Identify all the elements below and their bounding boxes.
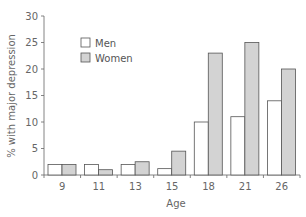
bar-men-13 <box>121 164 135 175</box>
bar-women-15 <box>172 151 186 175</box>
legend-swatch-men <box>81 38 90 47</box>
y-tick-label: 25 <box>25 37 38 48</box>
bar-men-15 <box>158 169 172 175</box>
bar-men-9 <box>48 164 62 175</box>
legend-label-women: Women <box>95 53 133 64</box>
y-tick-label: 0 <box>32 170 38 181</box>
y-tick-label: 30 <box>25 11 38 22</box>
y-tick-label: 15 <box>25 90 38 101</box>
x-tick-label: 9 <box>59 181 65 192</box>
y-tick-label: 20 <box>25 64 38 75</box>
legend: Men Women <box>81 38 133 64</box>
bar-men-18 <box>194 122 208 175</box>
y-tick-label: 5 <box>32 143 38 154</box>
x-tick-label: 15 <box>166 181 179 192</box>
y-axis-title: % with major depression <box>6 34 17 158</box>
bar-men-21 <box>231 117 245 175</box>
y-axis: 051015202530 <box>25 11 44 181</box>
bar-women-21 <box>245 43 259 176</box>
bar-men-11 <box>85 164 99 175</box>
bar-women-26 <box>281 69 295 175</box>
bar-women-9 <box>62 164 76 175</box>
bar-women-13 <box>135 162 149 175</box>
x-axis: 9111315182126 <box>44 175 300 192</box>
bar-chart: 051015202530 9111315182126 % with major … <box>0 0 306 217</box>
x-tick-label: 18 <box>202 181 215 192</box>
x-tick-label: 21 <box>239 181 252 192</box>
x-tick-label: 11 <box>92 181 105 192</box>
bar-men-26 <box>267 101 281 175</box>
legend-swatch-women <box>81 53 90 62</box>
x-tick-label: 26 <box>275 181 288 192</box>
y-tick-label: 10 <box>25 117 38 128</box>
x-axis-title: Age <box>166 198 185 209</box>
legend-label-men: Men <box>95 38 116 49</box>
bar-women-11 <box>99 170 113 175</box>
x-tick-label: 13 <box>129 181 142 192</box>
bar-women-18 <box>208 53 222 175</box>
